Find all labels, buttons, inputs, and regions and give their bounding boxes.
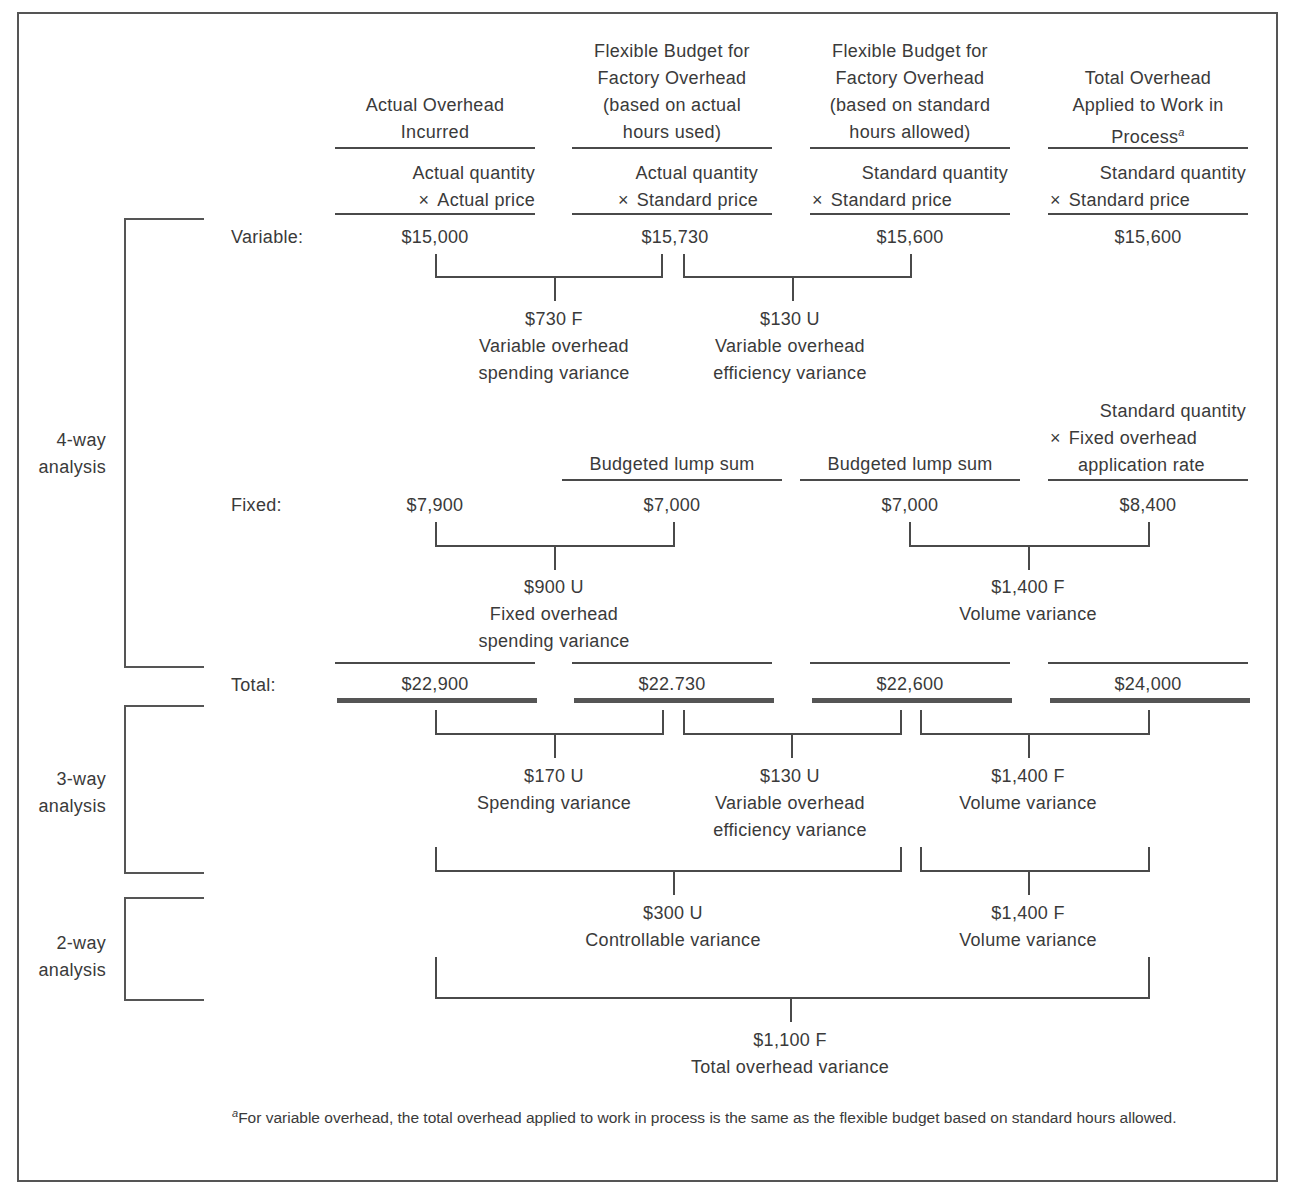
total-top-rule [335,662,535,664]
fixed-flex-standard: $7,000 [882,492,939,519]
connector-stem [792,277,794,301]
variance-volume-4way: $1,400 F Volume variance [959,574,1097,628]
fixed-col4-formula: Standard quantity ×Fixed overhead applic… [1048,398,1246,479]
connector-bracket [435,254,663,278]
fixed-col2-header: Budgeted lump sum [589,451,754,478]
col1-formula-rule [335,213,535,215]
variance-var-efficiency: $130 U Variable overhead efficiency vari… [713,306,866,387]
connector-bracket [683,710,902,735]
fixed-col2-rule [562,479,782,481]
connector-stem [554,734,556,758]
total-top-rule [1048,662,1248,664]
connector-stem [790,998,792,1022]
fixed-col3-header: Budgeted lump sum [827,451,992,478]
times-icon: × [812,190,823,210]
total-double-rule [337,698,537,703]
col2-header: Flexible Budget forFactory Overhead (bas… [594,38,750,146]
variance-volume-3way: $1,400 F Volume variance [959,763,1097,817]
variance-total: $1,100 F Total overhead variance [691,1027,889,1081]
total-applied: $24,000 [1114,671,1181,698]
fixed-col4-rule [1048,479,1248,481]
col3-formula-rule [810,213,1010,215]
four-way-label: 4-wayanalysis [20,427,106,481]
col4-header: Total OverheadApplied to Work in Process… [1072,65,1223,151]
variance-spending-3way: $170 U Spending variance [477,763,631,817]
connector-bracket [683,254,912,278]
col3-header-rule [810,147,1010,149]
variable-applied: $15,600 [1114,224,1181,251]
col2-formula: Actual quantity ×Standard price [572,160,758,214]
total-top-rule [572,662,772,664]
variance-fixed-spending: $900 U Fixed overhead spending variance [478,574,629,655]
connector-bracket [920,847,1150,872]
variance-controllable: $300 U Controllable variance [585,900,760,954]
col1-formula: Actual quantity ×Actual price [335,160,535,214]
variable-flex-actual: $15,730 [641,224,708,251]
fixed-col3-rule [800,479,1020,481]
three-way-label: 3-wayanalysis [20,766,106,820]
col1-header-rule [335,147,535,149]
two-way-bracket [124,897,204,1001]
col4-formula: Standard quantity ×Standard price [1048,160,1246,214]
fixed-applied: $8,400 [1120,492,1177,519]
total-top-rule [810,662,1010,664]
connector-stem [1028,546,1030,570]
connector-stem [1028,871,1030,895]
connector-stem [554,546,556,570]
times-icon: × [1050,428,1061,448]
col1-header: Actual OverheadIncurred [366,92,505,146]
variance-efficiency-3way: $130 U Variable overhead efficiency vari… [713,763,866,844]
variance-var-spending: $730 F Variable overhead spending varian… [478,306,629,387]
total-flex-standard: $22,600 [876,671,943,698]
col4-header-rule [1048,147,1248,149]
total-row-label: Total: [231,672,276,699]
total-flex-actual: $22.730 [638,671,705,698]
footnote: aFor variable overhead, the total overhe… [232,1100,1232,1131]
two-way-label: 2-wayanalysis [20,930,106,984]
total-double-rule [1050,698,1250,703]
col2-formula-rule [572,213,772,215]
times-icon: × [1050,190,1061,210]
col4-formula-rule [1048,213,1248,215]
fixed-actual: $7,900 [407,492,464,519]
connector-bracket [435,522,675,547]
connector-stem [554,277,556,301]
fixed-row-label: Fixed: [231,492,282,519]
connector-stem [791,734,793,758]
variance-volume-2way: $1,400 F Volume variance [959,900,1097,954]
col2-header-rule [572,147,772,149]
connector-bracket [435,847,902,872]
connector-bracket [920,710,1150,735]
col3-formula: Standard quantity ×Standard price [810,160,1008,214]
connector-bracket [435,710,664,735]
variable-actual: $15,000 [401,224,468,251]
fixed-flex-actual: $7,000 [644,492,701,519]
total-double-rule [812,698,1012,703]
three-way-bracket [124,705,204,874]
col3-header: Flexible Budget forFactory Overhead (bas… [830,38,991,146]
footnote-mark: a [1178,126,1184,138]
variable-row-label: Variable: [231,224,303,251]
connector-stem [1028,734,1030,758]
connector-bracket [909,522,1150,547]
connector-bracket [435,957,1150,999]
four-way-bracket [124,218,204,668]
times-icon: × [419,190,430,210]
connector-stem [673,871,675,895]
variable-flex-standard: $15,600 [876,224,943,251]
times-icon: × [618,190,629,210]
total-double-rule [574,698,774,703]
total-actual: $22,900 [401,671,468,698]
